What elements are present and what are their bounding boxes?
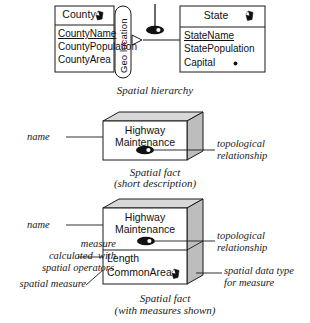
spatial-fact-measures-caption-line1: Spatial fact	[90, 292, 240, 304]
annotation-topological-measures-line1: topological	[217, 230, 265, 242]
annotation-topological-measures-line2: relationship	[217, 242, 267, 254]
state-attribute: StatePopulation	[184, 43, 255, 54]
county-entity-name: County	[58, 9, 100, 21]
annotation-spatial-datatype-line2: for measure	[224, 277, 274, 289]
annotation-measure-line3: spatial operators	[2, 262, 114, 274]
spatial-data-type-icon	[172, 269, 179, 279]
geo-location-label: Geo location	[118, 17, 129, 73]
county-attribute-key: CountyName	[58, 28, 116, 39]
spatial-hierarchy-caption: Spatial hierarchy	[80, 84, 230, 96]
state-attribute-key: StateName	[184, 30, 234, 41]
spatial-data-type-icon	[246, 11, 253, 21]
fact-short-name-line1: Highway	[106, 124, 184, 136]
fact-measures-name-line1: Highway	[106, 211, 184, 223]
fact-short-name-line2: Maintenance	[106, 136, 184, 148]
county-attribute: CountyArea	[58, 54, 111, 65]
annotation-topological-short-line1: topological	[217, 138, 265, 150]
state-attribute: Capital	[184, 57, 215, 68]
state-entity-name: State	[190, 10, 242, 22]
annotation-name-short: name	[27, 131, 50, 143]
annotation-measure-line2: calculated with	[4, 250, 116, 262]
annotation-measure-line1: measure	[40, 238, 116, 250]
annotation-spatial-measure: spatial measure	[2, 278, 86, 290]
annotation-spatial-datatype-line1: spatial data type	[224, 265, 294, 277]
diagram-canvas: County CountyName CountyPopulation Count…	[0, 0, 310, 323]
topological-relationship-icon	[146, 26, 164, 35]
hierarchy-relationship-link	[132, 4, 180, 45]
spatial-fact-measures-caption-line2: (with measures shown)	[90, 304, 240, 316]
fact-measure-item: CommonArea	[107, 266, 172, 279]
annotation-topological-short-line2: relationship	[217, 150, 267, 162]
point-spatial-icon	[234, 62, 238, 66]
spatial-fact-short-caption-line2: (short description)	[85, 177, 225, 189]
annotation-name-measures: name	[27, 219, 50, 231]
fact-measures-name-line2: Maintenance	[106, 223, 184, 235]
topological-relationship-icon	[137, 237, 155, 246]
